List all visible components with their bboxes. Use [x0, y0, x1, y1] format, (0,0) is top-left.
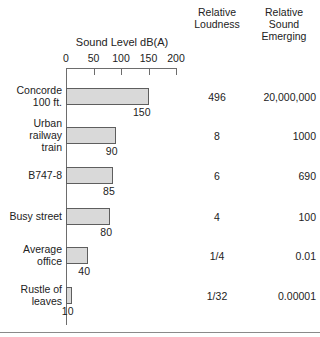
column-header-relative-sound-emerging: Relative Sound Emerging [252, 6, 316, 42]
bottom-divider [0, 332, 320, 333]
bar [66, 208, 110, 225]
category-label-line1: B747-8 [0, 169, 62, 181]
column-header-relative-loudness: Relative Loudness [186, 6, 248, 30]
bar-value-label: 150 [111, 106, 151, 118]
bar [66, 287, 72, 304]
bar [66, 247, 88, 264]
x-axis-tick-label-50: 50 [81, 52, 107, 64]
cell-relative-sound-emerging: 100 [248, 211, 316, 223]
category-label: Urbanrailwaytrain [0, 117, 66, 153]
x-axis-tick-150 [149, 68, 150, 75]
cell-relative-loudness: 8 [186, 130, 248, 142]
x-axis-title: Sound Level dB(A) [56, 36, 188, 49]
category-label-line1: Rustle of [0, 283, 62, 295]
cell-relative-sound-emerging: 0.01 [248, 250, 316, 262]
bar-value-label: 10 [34, 305, 74, 317]
bar-value-label: 80 [72, 226, 112, 238]
cell-relative-sound-emerging: 20,000,000 [248, 91, 316, 103]
cell-relative-loudness: 496 [186, 91, 248, 103]
category-label: Averageoffice [0, 243, 66, 267]
category-label-line1: Concorde [0, 84, 62, 96]
category-label-line2: 100 ft. [0, 96, 62, 108]
category-label-line1: Average [0, 243, 62, 255]
column-header-relative-loudness-line2: Loudness [186, 18, 248, 30]
bar [66, 88, 149, 105]
category-label: Busy street [0, 210, 66, 222]
column-header-relative-sound-emerging-line1: Relative [252, 6, 316, 18]
x-axis-end-cap [176, 68, 177, 75]
category-label-line1: Urban [0, 117, 62, 129]
cell-relative-loudness: 4 [186, 211, 248, 223]
category-label-line3: train [0, 141, 62, 153]
cell-relative-sound-emerging: 0.00001 [248, 290, 316, 302]
x-axis-tick-label-100: 100 [108, 52, 134, 64]
x-axis-tick-100 [121, 68, 122, 75]
x-axis-tick-50 [94, 68, 95, 75]
bar [66, 127, 116, 144]
x-axis-tick-label-200: 200 [163, 52, 189, 64]
category-label: Concorde100 ft. [0, 84, 66, 108]
column-header-relative-loudness-line1: Relative [186, 6, 248, 18]
column-header-relative-sound-emerging-line3: Emerging [252, 30, 316, 42]
x-axis-tick-label-150: 150 [136, 52, 162, 64]
category-label: B747-8 [0, 169, 66, 181]
bar-value-label: 40 [50, 265, 90, 277]
category-label: Rustle ofleaves [0, 283, 66, 307]
cell-relative-sound-emerging: 690 [248, 170, 316, 182]
bar-value-label: 85 [75, 185, 115, 197]
cell-relative-sound-emerging: 1000 [248, 130, 316, 142]
cell-relative-loudness: 6 [186, 170, 248, 182]
sound-level-chart-figure: Relative Loudness Relative Sound Emergin… [0, 0, 320, 337]
bar [66, 167, 113, 184]
bar-value-label: 90 [78, 145, 118, 157]
category-label-line2: railway [0, 129, 62, 141]
cell-relative-loudness: 1/32 [186, 290, 248, 302]
x-axis-tick-label-0: 0 [53, 52, 79, 64]
cell-relative-loudness: 1/4 [186, 250, 248, 262]
x-axis-tick-0 [66, 68, 67, 75]
category-label-line1: Busy street [0, 210, 62, 222]
column-header-relative-sound-emerging-line2: Sound [252, 18, 316, 30]
